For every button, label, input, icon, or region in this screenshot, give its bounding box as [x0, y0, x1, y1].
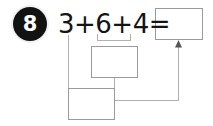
equation-expression: 3+6+4= [58, 9, 170, 39]
partial-sum-box-bottom[interactable] [68, 88, 115, 120]
partial-sum-box-middle[interactable] [91, 46, 138, 78]
problem-number-label: 8 [23, 14, 38, 35]
math-worksheet-problem: 8 3+6+4= [0, 0, 213, 126]
arrow-head-to-final-answer-box [175, 40, 182, 48]
problem-number-badge: 8 [13, 7, 47, 41]
